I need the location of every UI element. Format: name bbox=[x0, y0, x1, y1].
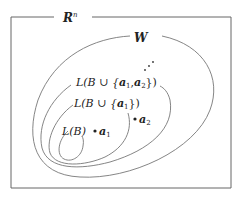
region-l-b-label: L(B) bbox=[61, 125, 86, 138]
subspace-diagram: Rn W L(B ∪ {a1,a2}) L(B ∪ {a1}) L(B) a1 … bbox=[0, 0, 240, 204]
svg-text:a2: a2 bbox=[139, 113, 151, 127]
ellipsis-dots bbox=[144, 61, 154, 71]
region-l-b-a1-label: L(B ∪ {a1}) bbox=[73, 97, 140, 111]
frame-label-rn: Rn bbox=[62, 11, 78, 25]
svg-text:a1: a1 bbox=[99, 125, 111, 139]
point-a2: a2 bbox=[133, 113, 150, 127]
region-l-b-a1-a2-label: L(B ∪ {a1,a2}) bbox=[75, 76, 157, 90]
region-w-label: W bbox=[134, 31, 149, 45]
point-a1: a1 bbox=[93, 125, 110, 139]
